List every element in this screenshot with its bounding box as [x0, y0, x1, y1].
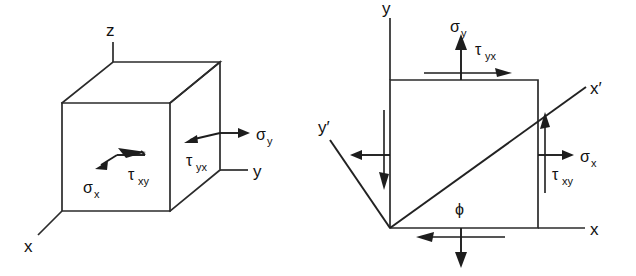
cube-sigma-x-label: σ x — [83, 179, 100, 200]
element-sigma-x-right-arrow — [538, 150, 574, 160]
cube-sigma-y-label: σ y — [256, 126, 273, 147]
element-inclined-plane — [390, 87, 586, 228]
element-sigma-y-top-label: σ y — [450, 18, 467, 39]
cube-tau-yx-arrow — [184, 133, 220, 143]
element-tau-xy-right-label: τ xy — [552, 166, 574, 187]
element-tau-yx-top-subscript: yx — [485, 50, 497, 62]
element-x-axis: x — [538, 220, 599, 239]
element-y-axis-label: y — [382, 0, 391, 18]
element-tau-xy-right-subscript: xy — [562, 175, 574, 187]
element-sigma-x-right-symbol: σ — [580, 148, 590, 165]
element-tau-yx-top-label: τ yx — [475, 41, 497, 62]
element-x-prime-label: x′ — [590, 79, 602, 98]
element-sigma-y-bottom-arrow — [455, 228, 467, 268]
cube-sigma-y-subscript: y — [267, 135, 273, 147]
element-tau-xy-right-symbol: τ — [552, 166, 559, 183]
element-tau-yx-top-arrow — [424, 68, 512, 77]
two-dimensional-stress-element: y x x′ y′ ϕ — [318, 0, 602, 268]
element-phi-label: ϕ — [455, 201, 464, 218]
three-dimensional-stress-cube: z y x σ x — [24, 21, 273, 256]
element-x-prime-axis: x′ — [590, 79, 602, 98]
element-y-prime-axis: y′ — [318, 118, 390, 228]
element-sigma-y-top-subscript: y — [461, 27, 467, 39]
cube-tau-yx-symbol: τ — [186, 152, 193, 169]
element-sigma-x-right-subscript: x — [591, 157, 597, 169]
cube-tau-xy-arrow — [117, 148, 146, 158]
element-square — [390, 80, 538, 228]
cube-tau-yx-label: τ yx — [186, 152, 208, 173]
cube-x-axis-label: x — [24, 237, 33, 256]
cube-tau-xy-symbol: τ — [128, 166, 135, 183]
cube-sigma-x-subscript: x — [94, 188, 100, 200]
element-y-axis: y — [382, 0, 391, 80]
cube-sigma-x-symbol: σ — [83, 179, 93, 196]
element-x-axis-label: x — [590, 220, 599, 239]
diagram-canvas: z y x σ x — [0, 0, 636, 276]
cube-tau-xy-label: τ xy — [128, 166, 150, 187]
cube-front-face — [62, 103, 170, 211]
element-sigma-x-right-label: σ x — [580, 148, 597, 169]
cube-tau-xy-subscript: xy — [138, 175, 150, 187]
element-sigma-y-top-symbol: σ — [450, 18, 460, 35]
cube-sigma-y-symbol: σ — [256, 126, 266, 143]
cube-y-axis: y — [220, 162, 262, 181]
stress-diagram-figure: z y x σ x — [0, 0, 636, 276]
element-tau-xy-left-arrow — [379, 110, 389, 190]
element-tau-xy-right-arrow — [540, 112, 550, 193]
cube-tau-yx-subscript: yx — [196, 161, 208, 173]
cube-x-axis: x — [24, 211, 62, 256]
cube-y-axis-label: y — [253, 162, 262, 181]
element-phi-angle: ϕ — [455, 201, 464, 218]
element-tau-yx-top-symbol: τ — [475, 41, 482, 58]
cube-z-axis-label: z — [106, 21, 115, 40]
cube-sigma-y-arrow — [220, 128, 250, 138]
element-y-prime-label: y′ — [318, 118, 330, 137]
cube-z-axis: z — [106, 21, 115, 62]
cube-sigma-x-arrow — [95, 155, 117, 170]
